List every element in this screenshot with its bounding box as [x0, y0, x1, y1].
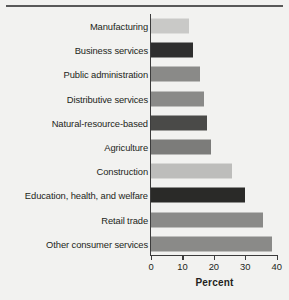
bar	[151, 91, 204, 106]
bar-row: Agriculture	[0, 135, 289, 159]
bar-track	[151, 236, 272, 251]
bar-track	[151, 212, 263, 227]
y-axis-line	[150, 14, 151, 256]
bar-track	[151, 91, 204, 106]
category-label: Natural-resource-based	[52, 117, 148, 128]
bar	[151, 140, 211, 155]
bar-row: Retail trade	[0, 208, 289, 232]
category-label: Retail trade	[101, 214, 148, 225]
x-axis-tick	[245, 255, 246, 260]
bar-track	[151, 164, 232, 179]
bar-row: Natural-resource-based	[0, 111, 289, 135]
x-axis-tick	[214, 255, 215, 260]
x-axis-tick-label: 40	[271, 261, 281, 272]
x-axis-tick	[277, 255, 278, 260]
bar-row: Education, health, and welfare	[0, 183, 289, 207]
bar-row: Public administration	[0, 62, 289, 86]
bar	[151, 212, 263, 227]
bar-track	[151, 19, 189, 34]
category-label: Business services	[75, 45, 148, 56]
bar-row: Distributive services	[0, 87, 289, 111]
bar	[151, 164, 232, 179]
bar	[151, 236, 272, 251]
category-label: Other consumer services	[46, 238, 148, 249]
top-divider-rule	[6, 5, 283, 7]
bar-track	[151, 67, 200, 82]
bar-row: Other consumer services	[0, 232, 289, 256]
category-label: Agriculture	[104, 142, 148, 153]
category-label: Public administration	[64, 69, 148, 80]
bar-track	[151, 140, 211, 155]
bar-chart-figure: ManufacturingBusiness servicesPublic adm…	[0, 0, 289, 300]
x-axis-tick-label: 20	[209, 261, 219, 272]
bar	[151, 188, 245, 203]
x-axis-tick-label: 10	[177, 261, 187, 272]
plot-area: ManufacturingBusiness servicesPublic adm…	[0, 14, 289, 256]
bar-track	[151, 115, 207, 130]
bar	[151, 19, 189, 34]
x-axis-tick	[151, 255, 152, 260]
category-label: Distributive services	[67, 93, 148, 104]
bar-row: Business services	[0, 38, 289, 62]
bar	[151, 43, 193, 58]
bar	[151, 115, 207, 130]
bar-row: Manufacturing	[0, 14, 289, 38]
x-axis-tick-label: 0	[148, 261, 153, 272]
bar	[151, 67, 200, 82]
category-label: Construction	[97, 166, 148, 177]
x-axis-title: Percent	[151, 277, 278, 288]
bar-row: Construction	[0, 159, 289, 183]
bar-track	[151, 188, 245, 203]
category-label: Education, health, and welfare	[25, 190, 148, 201]
x-axis-tick-label: 30	[240, 261, 250, 272]
x-axis-tick	[182, 255, 183, 260]
category-label: Manufacturing	[90, 21, 148, 32]
bar-track	[151, 43, 193, 58]
